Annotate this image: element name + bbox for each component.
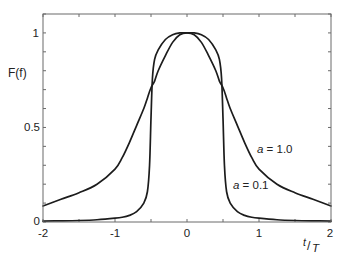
annotation-a-0-1: a = 0.1 xyxy=(233,179,269,191)
annotation-a-1-0: a = 1.0 xyxy=(257,143,293,155)
xtick-label-2: 2 xyxy=(327,227,333,239)
x-axis-label-slash: / xyxy=(307,239,311,253)
y-axis-label: F(f) xyxy=(8,66,27,80)
ytick-label-1: 1 xyxy=(33,27,39,39)
x-axis-label-denominator: T xyxy=(312,242,320,254)
ytick-label-0: 0 xyxy=(34,215,40,227)
chart: 1 0.5 0 -2 -1 0 1 2 F(f) t / T a = 1.0 a… xyxy=(0,0,345,261)
xtick-label-1: 1 xyxy=(256,227,262,239)
xtick-label-neg1: -1 xyxy=(110,227,120,239)
annotation-value: = 1.0 xyxy=(263,143,292,155)
xtick-label-neg2: -2 xyxy=(38,227,48,239)
ytick-label-0-5: 0.5 xyxy=(24,121,40,133)
annotation-value: = 0.1 xyxy=(239,179,268,191)
xtick-label-0: 0 xyxy=(184,227,190,239)
